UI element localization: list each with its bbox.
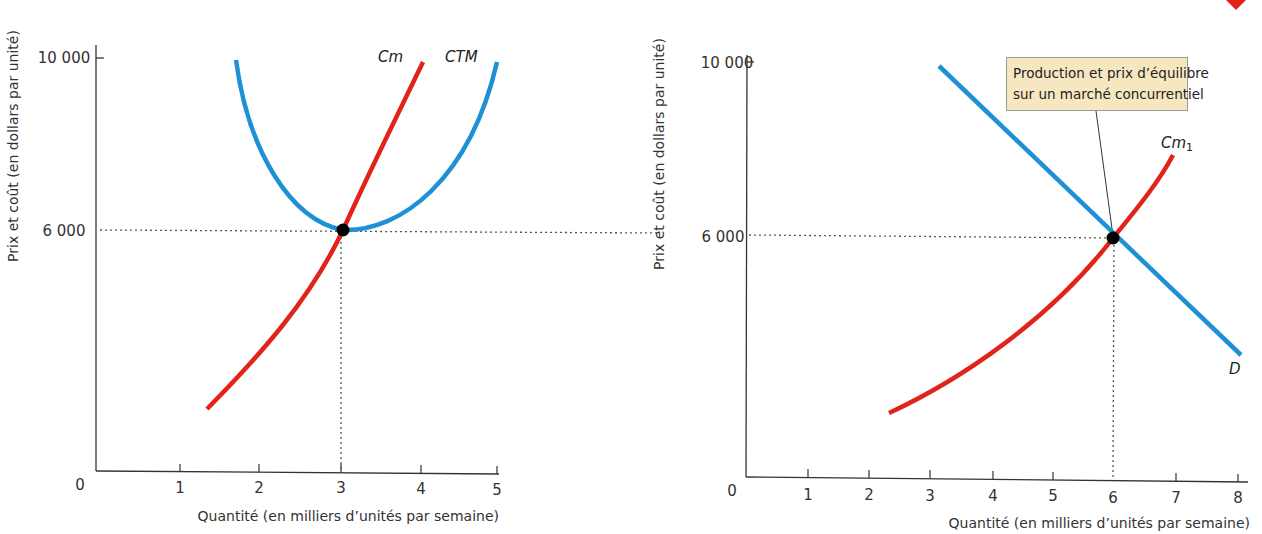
left-atc-curve (236, 60, 497, 230)
left-mc-curve (207, 62, 423, 409)
right-y-axis-title: Prix et coût (en dollars par unité) (651, 38, 667, 270)
annotation-line-2: sur un marché concurrentiel (1013, 84, 1181, 105)
left-xtick-2: 2 (254, 479, 264, 497)
right-chart (746, 55, 1248, 482)
annotation-line-1: Production et prix d’équilibre (1013, 63, 1181, 84)
right-ytick-6000: 6 000 (702, 228, 745, 246)
left-origin-label: 0 (75, 476, 85, 494)
right-xtick-3: 3 (925, 487, 935, 505)
left-xtick-3: 3 (336, 479, 346, 497)
right-origin-label: 0 (727, 482, 737, 500)
right-ytick-10000: 10 000 (701, 54, 754, 72)
left-ytick-6000: 6 000 (43, 222, 86, 240)
right-price-guide (749, 235, 1110, 238)
right-mc-curve (889, 155, 1173, 413)
right-x-axis (746, 477, 1248, 482)
right-demand-label: D (1229, 360, 1241, 378)
left-y-axis-title: Prix et coût (en dollars par unité) (5, 30, 21, 262)
right-xtick-7: 7 (1171, 489, 1181, 507)
right-xtick-1: 1 (803, 486, 813, 504)
right-y-axis (746, 55, 747, 477)
right-xtick-6: 6 (1108, 489, 1118, 507)
left-equilibrium-point (337, 224, 350, 237)
left-atc-label: CTM (445, 48, 478, 66)
corner-marker-icon (1226, 0, 1246, 10)
left-xtick-4: 4 (416, 480, 426, 498)
left-price-guide (100, 230, 660, 233)
left-ytick-10000: 10 000 (38, 49, 91, 67)
right-equilibrium-point (1107, 232, 1120, 245)
right-mc-label: Cm1 (1161, 134, 1193, 154)
equilibrium-annotation: Production et prix d’équilibre sur un ma… (1006, 57, 1188, 111)
right-xtick-2: 2 (864, 486, 874, 504)
right-quantity-guide (1113, 240, 1114, 478)
left-x-axis-title: Quantité (en milliers d’unités par semai… (198, 508, 499, 524)
right-xtick-8: 8 (1233, 489, 1243, 507)
right-x-axis-title: Quantité (en milliers d’unités par semai… (949, 515, 1250, 531)
left-xtick-1: 1 (175, 479, 185, 497)
left-mc-label: Cm (378, 48, 403, 66)
left-x-axis (96, 471, 499, 474)
left-chart (96, 45, 660, 474)
left-xtick-5: 5 (492, 481, 502, 499)
right-xtick-4: 4 (988, 487, 998, 505)
right-xtick-5: 5 (1048, 487, 1058, 505)
